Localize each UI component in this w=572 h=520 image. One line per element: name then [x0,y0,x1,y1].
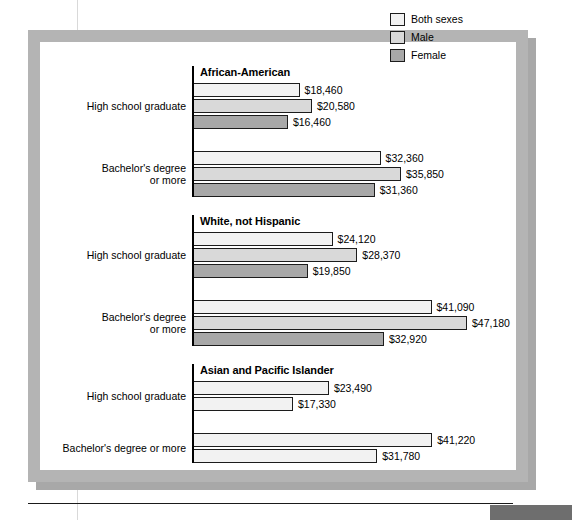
bar[interactable] [192,99,312,113]
bar[interactable] [192,300,432,314]
bar[interactable] [192,232,333,246]
bar-value-label: $23,490 [334,383,372,394]
bottom-divider-rule [28,503,513,504]
category-label-line: or more [40,174,186,186]
bar-value-label: $24,120 [338,234,376,245]
legend-item[interactable]: Male [390,30,500,44]
chart-legend: Both sexesMaleFemale [390,12,500,66]
bar-value-label: $35,850 [406,169,444,180]
value-axis-line [192,364,194,463]
bar-value-label: $18,460 [305,85,343,96]
category-label: Bachelor's degreeor more [40,162,186,186]
bar[interactable] [192,433,432,447]
bar[interactable] [192,248,357,262]
bar[interactable] [192,381,329,395]
bar[interactable] [192,167,401,181]
group-title: White, not Hispanic [200,215,300,227]
bar[interactable] [192,397,293,411]
category-label: Bachelor's degree or more [40,442,186,454]
bar-value-label: $19,850 [313,266,351,277]
bar-value-label: $41,090 [437,302,475,313]
bar[interactable] [192,332,384,346]
category-label-line: Bachelor's degree or more [40,442,186,454]
page-canvas: African-American$18,460$20,580$16,460Hig… [0,0,572,520]
category-label-line: High school graduate [40,100,186,112]
value-axis-line [192,215,194,346]
bottom-corner-block [490,505,572,520]
category-label: High school graduate [40,249,186,261]
bar[interactable] [192,151,381,165]
bar[interactable] [192,183,375,197]
bar-value-label: $47,180 [472,318,510,329]
legend-swatch [390,31,405,44]
category-label-line: High school graduate [40,249,186,261]
legend-item[interactable]: Female [390,48,500,62]
legend-item[interactable]: Both sexes [390,12,500,26]
category-label-line: Bachelor's degree [40,311,186,323]
bar-value-label: $31,360 [380,185,418,196]
category-label-line: High school graduate [40,390,186,402]
bar-value-label: $32,920 [389,334,427,345]
bar-value-label: $17,330 [298,399,336,410]
legend-label: Male [411,31,434,43]
bar-value-label: $32,360 [386,153,424,164]
legend-label: Female [411,49,446,61]
bar[interactable] [192,115,288,129]
bar[interactable] [192,83,300,97]
bar-value-label: $31,780 [382,451,420,462]
category-label-line: Bachelor's degree [40,162,186,174]
bar-value-label: $28,370 [362,250,400,261]
bar[interactable] [192,264,308,278]
bar-chart: African-American$18,460$20,580$16,460Hig… [40,42,516,470]
category-label: Bachelor's degreeor more [40,311,186,335]
bar-value-label: $16,460 [293,117,331,128]
category-label: High school graduate [40,390,186,402]
bar[interactable] [192,449,377,463]
bar[interactable] [192,316,467,330]
group-title: African-American [200,66,290,78]
category-label: High school graduate [40,100,186,112]
bar-value-label: $20,580 [317,101,355,112]
legend-swatch [390,13,405,26]
value-axis-line [192,66,194,197]
category-label-line: or more [40,323,186,335]
legend-swatch [390,49,405,62]
bar-value-label: $41,220 [437,435,475,446]
group-title: Asian and Pacific Islander [200,364,334,376]
legend-label: Both sexes [411,13,463,25]
